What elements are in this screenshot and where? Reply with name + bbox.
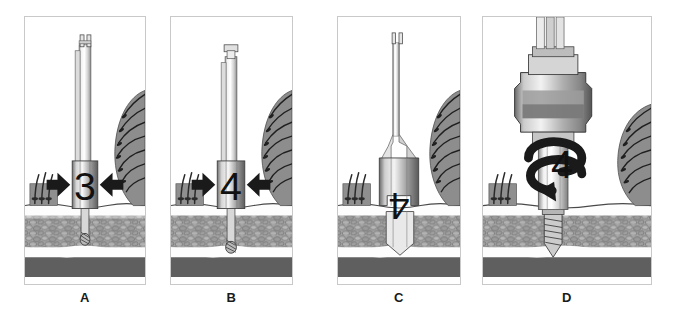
handpiece-neck-d bbox=[536, 17, 564, 49]
panel-a[interactable]: 3 bbox=[24, 16, 146, 285]
step-label-b: 4 bbox=[220, 163, 242, 207]
panel-d[interactable]: 4 bbox=[482, 16, 652, 285]
anatomy-trabecular-bone bbox=[483, 215, 651, 248]
step-label-a: 3 bbox=[74, 163, 96, 207]
panel-caption-b: B bbox=[170, 290, 293, 312]
step-label-d: 4 bbox=[551, 142, 573, 186]
panel-c[interactable]: 4 bbox=[337, 16, 461, 285]
panel-caption-d: D bbox=[482, 290, 652, 312]
panel-b[interactable]: 4 bbox=[170, 16, 293, 285]
step-label-c: 4 bbox=[389, 185, 410, 227]
panel-caption-c: C bbox=[337, 290, 461, 312]
panel-d-graphic: 4 bbox=[483, 17, 651, 284]
panel-caption-a: A bbox=[24, 290, 146, 312]
drill-shank-b bbox=[221, 45, 238, 162]
panel-a-graphic: 3 bbox=[25, 17, 145, 284]
illustration-figure: 3 bbox=[0, 0, 676, 316]
panel-b-graphic: 4 bbox=[171, 17, 292, 284]
panel-c-graphic: 4 bbox=[338, 17, 460, 284]
drill-bur-b bbox=[226, 202, 237, 254]
panel-grid: 3 bbox=[0, 0, 676, 316]
drill-shank-a bbox=[75, 35, 91, 162]
